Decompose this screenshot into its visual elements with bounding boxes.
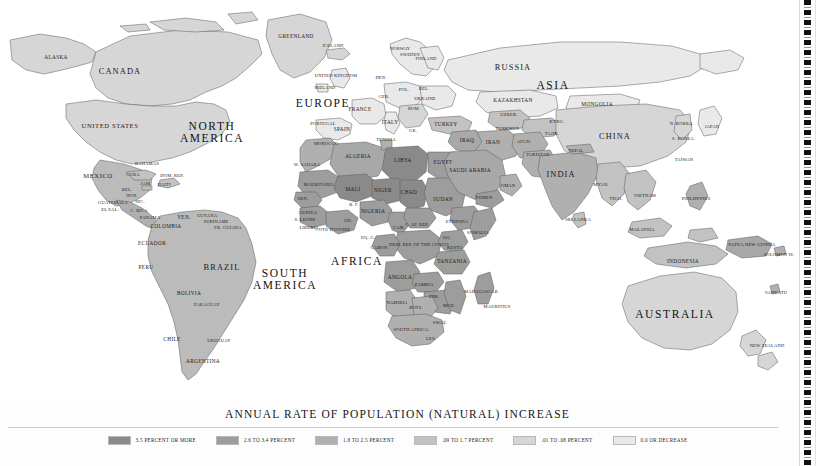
country-label-norway: NORWAY <box>390 47 410 52</box>
country-label-sri-lanka: SRI LANKA <box>565 218 591 223</box>
country-label-peru: PERU <box>139 265 154 270</box>
continent-label-south-america: SOUTHAMERICA <box>253 268 317 291</box>
country-label-rom: ROM. <box>408 107 420 112</box>
country-label-iran: IRAN <box>486 140 500 145</box>
country-label-madagascar: MADAGASCAR <box>464 290 498 295</box>
country-label-greenland: GREENLAND <box>278 34 314 39</box>
country-label-uzbek: UZBEK. <box>500 113 517 118</box>
country-label-portugal: PORTUGAL <box>310 122 335 127</box>
country-label-mexico: MEXICO <box>83 173 113 180</box>
country-label-ger: GER. <box>379 95 390 100</box>
country-label-iceland: ICELAND <box>322 44 343 49</box>
binding-coil <box>804 0 811 466</box>
legend-label-4: .01 TO .08 PERCENT <box>541 437 592 443</box>
country-label-gabon: GABON <box>370 246 387 251</box>
country-label-s-korea: S. KOREA <box>672 137 694 142</box>
country-label-kenya: KENYA <box>447 246 463 251</box>
country-label-bel: BEL. <box>419 87 429 92</box>
legend-item-5: 0.0 OR DECREASE <box>613 436 688 445</box>
country-label-iraq: IRAQ <box>460 138 474 143</box>
country-label-sudan: SUDAN <box>433 197 453 202</box>
country-label-panama: PANAMA <box>140 216 160 221</box>
country-label-gh: GH. <box>344 219 352 224</box>
country-label-china: CHINA <box>599 133 631 142</box>
country-label-tanzania: TANZANIA <box>437 259 467 264</box>
country-label-uruguay: URUGUAY <box>207 339 231 344</box>
country-label-turkey: TURKEY <box>434 122 458 127</box>
legend-item-3: .09 TO 1.7 PERCENT <box>414 436 493 445</box>
country-label-gr: GR. <box>409 129 417 134</box>
country-label-haiti: HAITI <box>157 183 170 188</box>
country-label-afgh: AFGH. <box>517 140 531 145</box>
country-label-ukraine: UKRAINE <box>414 97 436 102</box>
country-label-mongolia: MONGOLIA <box>581 102 613 107</box>
country-label-suriname: SURINAME <box>203 220 228 225</box>
country-label-eq-g: EQ. G. <box>361 236 375 241</box>
country-label-chad: CHAD <box>401 190 417 195</box>
country-label-mauritius: MAURITIUS <box>484 305 511 310</box>
country-label-ethiopia: ETHIOPIA <box>446 220 468 225</box>
country-label-c-af-rep: C. AF. REP. <box>405 223 429 228</box>
country-label-w-sahara: W. SAHARA <box>294 163 320 168</box>
country-label-pakistan: PAKISTAN <box>526 153 549 158</box>
country-label-tajik: TAJIK. <box>545 132 559 137</box>
country-label-oman: OMAN <box>501 184 516 189</box>
country-label-malaysia: MALAYSIA <box>630 228 655 233</box>
country-label-tunisia: TUNISIA <box>376 138 395 143</box>
binding-edge-line-left <box>799 0 800 466</box>
country-label-egypt: EGYPT <box>434 160 453 165</box>
country-label-nepal: NEPAL <box>568 149 583 154</box>
country-label-zim: ZIM. <box>429 295 439 300</box>
legend-items: 3.5 PERCENT OR MORE2.6 TO 3.4 PERCENT1.8… <box>0 430 795 450</box>
country-label-taiwan: TAIWAN <box>675 158 694 163</box>
country-label-turkmen: TURKMEN. <box>496 127 521 132</box>
legend-item-2: 1.8 TO 2.5 PERCENT <box>315 436 394 445</box>
country-label-zambia: ZAMBIA <box>415 283 434 288</box>
country-label-india: INDIA <box>546 171 575 180</box>
country-label-spain: SPAIN <box>334 127 351 132</box>
country-label-el-sal: EL SAL. <box>101 208 118 213</box>
country-label-morocco: MOROCCO <box>314 142 338 147</box>
country-label-saudi-arabia: SAUDI ARABIA <box>449 168 491 173</box>
legend-swatch-0 <box>108 436 131 445</box>
country-label-japan: JAPAN <box>705 125 720 130</box>
legend-label-3: .09 TO 1.7 PERCENT <box>442 437 493 443</box>
country-label-guinea: GUINEA <box>299 211 317 216</box>
country-label-solomon-is: SOLOMON IS. <box>764 253 795 258</box>
country-label-colombia: COLOMBIA <box>150 224 181 229</box>
legend-item-4: .01 TO .08 PERCENT <box>513 436 592 445</box>
country-label-ug: UG. <box>443 236 451 241</box>
country-label-dom-rep: DOM. REP. <box>160 174 183 179</box>
legend-label-1: 2.6 TO 3.4 PERCENT <box>244 437 295 443</box>
country-label-namibia: NAMIBIA <box>386 301 407 306</box>
country-label-papua-new-guinea: PAPUA NEW GUINEA <box>729 243 776 248</box>
country-label-b-f: B. F. <box>349 203 359 208</box>
country-label-paraguay: PARAGUAY <box>194 303 220 308</box>
country-label-kazakhstan: KAZAKHSTAN <box>493 98 532 103</box>
atlas-page: NORTHAMERICASOUTHAMERICAEUROPEAFRICAASIA… <box>0 0 818 466</box>
country-label-bolivia: BOLIVIA <box>177 291 201 296</box>
country-label-guatemala: GUATEMALA <box>98 201 128 206</box>
legend-label-5: 0.0 OR DECREASE <box>641 437 688 443</box>
legend-item-1: 2.6 TO 3.4 PERCENT <box>216 436 295 445</box>
legend-block: ANNUAL RATE OF POPULATION (NATURAL) INCR… <box>0 400 795 466</box>
country-label-niger: NIGER <box>374 188 392 193</box>
country-label-cote-d-ivoire: COTE D'IVOIRE <box>316 228 351 233</box>
country-label-c-rica: C. RICA <box>130 209 147 214</box>
country-label-united-kingdom: UNITED KINGDOM <box>315 74 357 79</box>
legend-item-0: 3.5 PERCENT OR MORE <box>108 436 196 445</box>
legend-label-2: 1.8 TO 2.5 PERCENT <box>343 437 394 443</box>
country-label-mali: MALI <box>346 187 361 192</box>
map-labels: NORTHAMERICASOUTHAMERICAEUROPEAFRICAASIA… <box>0 0 795 400</box>
country-label-finland: FINLAND <box>415 57 436 62</box>
country-label-ireland: IRELAND <box>314 86 335 91</box>
country-label-bahamas: BAHAMAS <box>135 162 159 167</box>
country-label-thai: THAI. <box>610 197 623 202</box>
country-label-philippines: PHILIPPINES <box>682 197 711 202</box>
country-label-guyana: GUYANA <box>197 214 217 219</box>
country-label-den: DEN. <box>375 76 386 81</box>
continent-label-asia: ASIA <box>536 80 569 92</box>
country-label-fr-guiana: FR. GUIANA <box>214 226 242 231</box>
continent-label-africa: AFRICA <box>331 256 383 268</box>
legend-swatch-2 <box>315 436 338 445</box>
